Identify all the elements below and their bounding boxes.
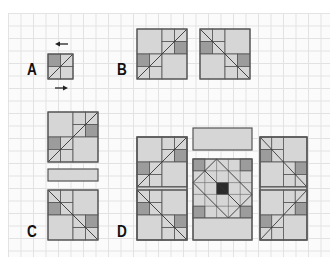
- label-b: B: [117, 62, 127, 78]
- panel-c-stack: [48, 112, 98, 240]
- arrow-left-icon: [55, 42, 68, 47]
- label-a: A: [27, 62, 37, 78]
- panel-d-center: [193, 128, 252, 240]
- panel-d-left-column: [137, 137, 187, 240]
- panel-b-blocks: [137, 29, 250, 79]
- quilt-diagram: .l { fill: #d6d6d6; stroke: #555; stroke…: [0, 0, 330, 267]
- label-c: C: [27, 224, 37, 240]
- label-d: D: [117, 224, 127, 240]
- panel-d-right-column: [260, 137, 307, 240]
- arrow-right-icon: [55, 86, 68, 91]
- center-block: [193, 159, 252, 240]
- panel-a-unit: [48, 54, 73, 79]
